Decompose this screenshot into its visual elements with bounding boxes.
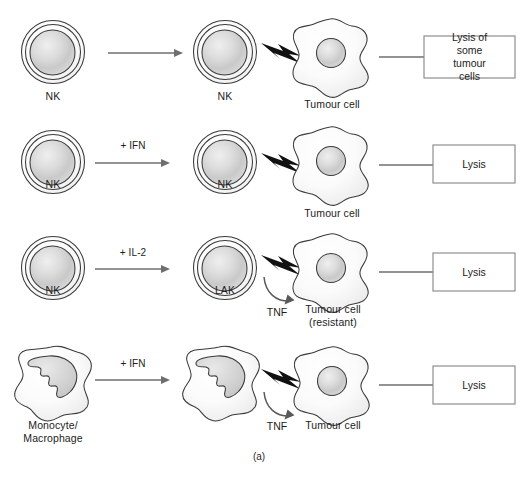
- tnf-label: TNF: [267, 306, 288, 319]
- activated-label: NK: [218, 178, 233, 191]
- cytokine-treatment-label: + IFN: [120, 358, 145, 371]
- macrophage-cell-icon: [15, 346, 92, 421]
- macrophage-cell-icon: [183, 346, 260, 421]
- nk-cell-icon: [22, 21, 85, 84]
- process-arrow-icon: [95, 265, 170, 273]
- target-label: Tumour cell: [305, 419, 361, 432]
- tumour-cell-icon: [294, 347, 369, 426]
- tnf-label: TNF: [267, 420, 288, 433]
- figure-panel-a: NK NK Tumour cell Lysis of some tumour c…: [0, 0, 523, 477]
- effector-label: Monocyte/ Macrophage: [23, 419, 82, 444]
- cytokine-treatment-label: + IL-2: [120, 247, 146, 260]
- lightning-bolt-icon: [261, 43, 301, 63]
- tumour-cell-icon: [293, 19, 368, 98]
- process-arrow-icon: [95, 376, 170, 384]
- activated-label: NK: [218, 90, 233, 103]
- tnf-arrow-icon: [264, 392, 295, 420]
- outcome-label: Lysis of some tumour cells: [443, 31, 497, 83]
- tumour-cell-icon: [293, 127, 368, 206]
- tumour-cell-icon: [293, 234, 368, 313]
- outcome-label: Lysis: [462, 266, 486, 279]
- target-label: Tumour cell: [304, 207, 360, 220]
- figure-caption: (a): [253, 451, 265, 462]
- outcome-label: Lysis: [462, 379, 486, 392]
- effector-label: NK: [46, 90, 61, 103]
- row-nk-ifn-graphics: [22, 127, 516, 206]
- nk-cell-icon: [194, 21, 257, 84]
- row-nk-baseline-graphics: [22, 19, 516, 98]
- process-arrow-icon: [95, 159, 170, 167]
- row-lak-il2-graphics: [22, 234, 516, 313]
- target-label: Tumour cell: [304, 98, 360, 111]
- lightning-bolt-icon: [261, 153, 301, 173]
- row-macrophage-ifn-graphics: [15, 346, 515, 425]
- cytokine-treatment-label: + IFN: [120, 140, 145, 153]
- lightning-bolt-icon: [261, 369, 301, 389]
- target-label: Tumour cell (resistant): [305, 303, 361, 328]
- effector-label: NK: [46, 178, 61, 191]
- outcome-label: Lysis: [462, 158, 486, 171]
- activated-label: LAK: [215, 284, 235, 297]
- tnf-arrow-icon: [264, 277, 295, 305]
- effector-label: NK: [46, 284, 61, 297]
- process-arrow-icon: [108, 49, 183, 57]
